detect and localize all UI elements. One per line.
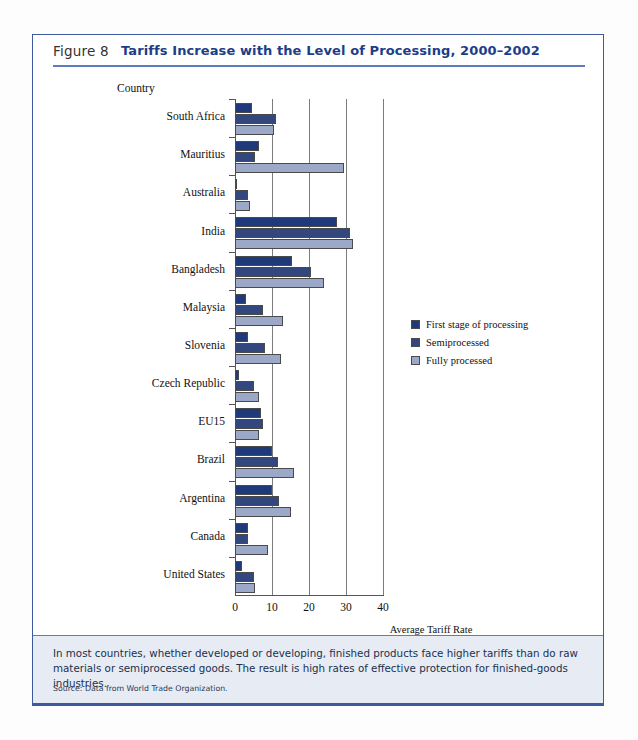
- bar-semiprocessed: [235, 114, 276, 124]
- bar-fully-processed: [235, 239, 353, 249]
- bar-fully-processed: [235, 507, 291, 517]
- legend-item-first-stage-of-processing: First stage of processing: [411, 319, 528, 330]
- bar-first-stage-of-processing: [235, 446, 272, 456]
- bars: [235, 141, 344, 174]
- bar-first-stage-of-processing: [235, 141, 259, 151]
- category-label: South Africa: [33, 110, 225, 122]
- category-label: Czech Republic: [33, 377, 225, 389]
- chart-plot-area: Country 010203040 South AfricaMauritiusA…: [33, 71, 605, 633]
- bar-fully-processed: [235, 163, 344, 173]
- figure-header: Figure 8 Tariffs Increase with the Level…: [33, 35, 603, 69]
- figure-title: Tariffs Increase with the Level of Proce…: [121, 43, 540, 58]
- bar-first-stage-of-processing: [235, 485, 272, 495]
- bars: [235, 294, 283, 327]
- bar-group-argentina: Argentina: [33, 481, 605, 519]
- category-label: Canada: [33, 530, 225, 542]
- bar-first-stage-of-processing: [235, 332, 248, 342]
- category-label: Malaysia: [33, 301, 225, 313]
- bar-fully-processed: [235, 430, 259, 440]
- bar-semiprocessed: [235, 534, 248, 544]
- legend-item-fully-processed: Fully processed: [411, 355, 528, 366]
- bar-first-stage-of-processing: [235, 370, 239, 380]
- legend-swatch-icon: [411, 338, 420, 347]
- bar-first-stage-of-processing: [235, 523, 248, 533]
- bars: [235, 103, 276, 136]
- bar-first-stage-of-processing: [235, 561, 242, 571]
- bar-first-stage-of-processing: [235, 179, 237, 189]
- bar-first-stage-of-processing: [235, 294, 246, 304]
- bar-group-australia: Australia: [33, 175, 605, 213]
- bar-group-brazil: Brazil: [33, 442, 605, 480]
- x-tick-label-0: 0: [220, 601, 250, 613]
- source-text: Source: Data from World Trade Organizati…: [53, 684, 581, 693]
- bar-first-stage-of-processing: [235, 103, 252, 113]
- bars: [235, 179, 250, 212]
- legend-item-semiprocessed: Semiprocessed: [411, 337, 528, 348]
- bar-fully-processed: [235, 468, 294, 478]
- bar-semiprocessed: [235, 305, 263, 315]
- bar-first-stage-of-processing: [235, 256, 292, 266]
- bar-semiprocessed: [235, 381, 254, 391]
- bar-group-south-africa: South Africa: [33, 99, 605, 137]
- bar-semiprocessed: [235, 228, 350, 238]
- bar-group-united-states: United States: [33, 557, 605, 595]
- x-tick-label-30: 30: [331, 601, 361, 613]
- bars: [235, 561, 255, 594]
- x-tick-label-20: 20: [294, 601, 324, 613]
- bar-semiprocessed: [235, 496, 279, 506]
- bar-group-canada: Canada: [33, 519, 605, 557]
- legend-swatch-icon: [411, 320, 420, 329]
- bar-group-mauritius: Mauritius: [33, 137, 605, 175]
- category-label: India: [33, 225, 225, 237]
- figure-number-label: Figure 8: [53, 43, 109, 59]
- bar-fully-processed: [235, 125, 274, 135]
- bar-fully-processed: [235, 201, 250, 211]
- legend-label: Fully processed: [426, 355, 492, 366]
- category-label: United States: [33, 568, 225, 580]
- bar-first-stage-of-processing: [235, 408, 261, 418]
- bar-semiprocessed: [235, 152, 255, 162]
- legend-swatch-icon: [411, 356, 420, 365]
- category-label: Bangladesh: [33, 263, 225, 275]
- bar-fully-processed: [235, 278, 324, 288]
- x-tick-label-10: 10: [257, 601, 287, 613]
- caption-bottom-divider: [33, 703, 603, 705]
- bar-semiprocessed: [235, 267, 311, 277]
- header-divider: [53, 65, 585, 67]
- bar-fully-processed: [235, 316, 283, 326]
- bars: [235, 370, 259, 403]
- category-label: Argentina: [33, 492, 225, 504]
- bars: [235, 523, 268, 556]
- bars: [235, 256, 324, 289]
- bar-fully-processed: [235, 392, 259, 402]
- bar-semiprocessed: [235, 190, 248, 200]
- bar-semiprocessed: [235, 572, 254, 582]
- bar-semiprocessed: [235, 343, 265, 353]
- category-label: Mauritius: [33, 148, 225, 160]
- category-label: Brazil: [33, 453, 225, 465]
- category-axis-label: Country: [117, 82, 155, 94]
- bars: [235, 217, 353, 250]
- category-axis-line: [235, 595, 384, 596]
- bar-semiprocessed: [235, 419, 263, 429]
- bars: [235, 485, 291, 518]
- chart-legend: First stage of processingSemiprocessedFu…: [411, 319, 528, 373]
- category-label: Australia: [33, 186, 225, 198]
- legend-label: Semiprocessed: [426, 337, 489, 348]
- legend-label: First stage of processing: [426, 319, 528, 330]
- bar-fully-processed: [235, 545, 268, 555]
- caption-block: In most countries, whether developed or …: [33, 636, 603, 705]
- bar-first-stage-of-processing: [235, 217, 337, 227]
- category-label: EU15: [33, 415, 225, 427]
- bars: [235, 446, 294, 479]
- bar-fully-processed: [235, 583, 255, 593]
- figure-page: Figure 8 Tariffs Increase with the Level…: [0, 0, 638, 740]
- bar-group-eu15: EU15: [33, 404, 605, 442]
- x-tick-label-40: 40: [368, 601, 398, 613]
- category-label: Slovenia: [33, 339, 225, 351]
- figure-container: Figure 8 Tariffs Increase with the Level…: [32, 34, 604, 706]
- bar-group-bangladesh: Bangladesh: [33, 252, 605, 290]
- bars: [235, 332, 281, 365]
- bar-fully-processed: [235, 354, 281, 364]
- bars: [235, 408, 263, 441]
